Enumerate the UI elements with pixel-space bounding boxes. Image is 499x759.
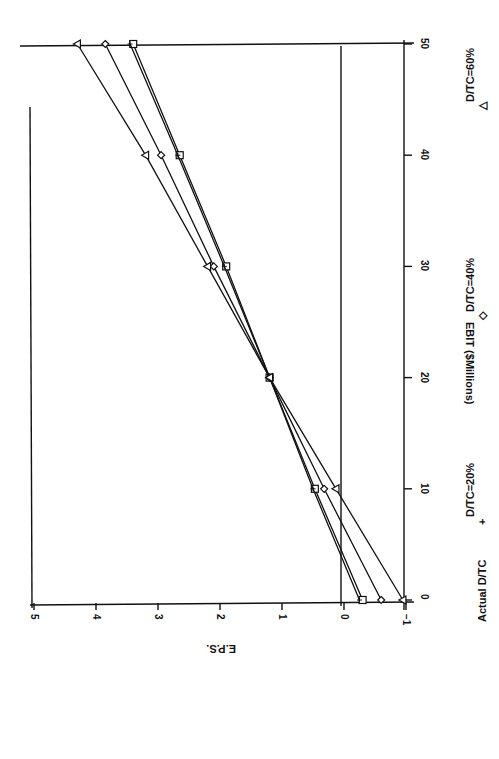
- triangle-marker-icon: [332, 485, 339, 493]
- ebit-tick-label: 40: [419, 149, 430, 160]
- diamond-marker-icon: [158, 152, 165, 159]
- plot-frame: [20, 40, 414, 610]
- legend-symbol-icon: +: [476, 519, 488, 525]
- legend-symbol-icon: △: [476, 102, 489, 110]
- series-d-tc-40-: [102, 41, 385, 604]
- legend-item-label: D/TC=40%: [464, 258, 476, 312]
- left-frame-line: [30, 107, 32, 608]
- series-d-tc-60-: [73, 40, 406, 604]
- triangle-marker-icon: [73, 40, 80, 48]
- series-line: [133, 44, 362, 600]
- eps-tick-label: 1: [277, 614, 288, 620]
- eps-tick-label: 4: [91, 614, 102, 620]
- eps-tick-label: 5: [29, 614, 40, 620]
- triangle-marker-icon: [142, 151, 149, 159]
- diamond-marker-icon: [210, 263, 217, 270]
- eps-tick-label: 0: [339, 614, 350, 620]
- ebit-tick-label: 20: [419, 372, 430, 383]
- triangle-marker-icon: [204, 262, 211, 270]
- ebit-tick-label: 30: [419, 260, 430, 271]
- series-line: [130, 44, 359, 600]
- diamond-marker-icon: [102, 41, 109, 48]
- ebit-tick-label: 0: [419, 594, 430, 600]
- eps-tick-label: 3: [153, 614, 164, 620]
- ebit-tick-label: 50: [419, 38, 430, 49]
- ebit-tick-label: 10: [419, 483, 430, 494]
- series-line: [77, 44, 403, 600]
- legend-item-label: D/TC=20%: [464, 463, 476, 517]
- y-axis-label: E.P.S.: [206, 643, 236, 655]
- series-lines: [73, 40, 406, 604]
- series-line: [105, 44, 381, 600]
- legend-title: Actual D/TC: [476, 560, 488, 622]
- x-axis-label: EBIT ($Millions): [464, 322, 476, 405]
- legend-item-label: D/TC=60%: [464, 48, 476, 102]
- eps-tick-label: −1: [401, 614, 412, 625]
- eps-axis-line: [30, 602, 414, 605]
- eps-tick-label: 2: [215, 614, 226, 620]
- diamond-marker-icon: [321, 485, 328, 492]
- legend-symbol-icon: ◇: [476, 312, 489, 320]
